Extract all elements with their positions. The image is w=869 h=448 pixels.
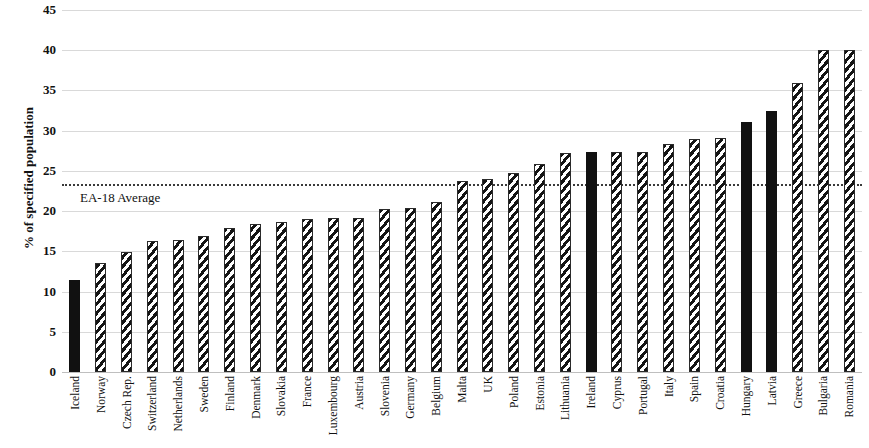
bar	[818, 50, 829, 372]
x-label-slot: Czech Rep.	[114, 374, 140, 448]
y-tick-label: 25	[22, 164, 56, 177]
bar	[844, 50, 855, 372]
bar-slot	[759, 10, 785, 372]
bar	[663, 144, 674, 372]
y-tick-label: 40	[22, 43, 56, 56]
bar-slot	[578, 10, 604, 372]
bar-series	[62, 10, 862, 372]
bar	[250, 224, 261, 372]
bar-slot	[372, 10, 398, 372]
x-tick-label: Germany	[404, 376, 416, 419]
bar	[328, 218, 339, 372]
bar-slot	[191, 10, 217, 372]
x-tick-label: Netherlands	[172, 376, 184, 432]
x-tick-label: Czech Rep.	[121, 376, 133, 429]
x-label-slot: Lithuania	[552, 374, 578, 448]
x-tick-label: Estonia	[534, 376, 546, 411]
y-tick-label: 30	[22, 124, 56, 137]
x-label-slot: Italy	[656, 374, 682, 448]
y-axis-tick-labels: 454035302520151050	[16, 10, 56, 372]
x-label-slot: Norway	[88, 374, 114, 448]
bar-slot	[785, 10, 811, 372]
bar	[147, 241, 158, 372]
x-tick-label: Italy	[663, 376, 675, 397]
x-tick-label: Austria	[353, 376, 365, 410]
bar	[276, 222, 287, 372]
bar-slot	[475, 10, 501, 372]
bar	[457, 181, 468, 372]
x-tick-label: Croatia	[714, 376, 726, 410]
x-label-slot: Sweden	[191, 374, 217, 448]
x-label-slot: Spain	[682, 374, 708, 448]
x-tick-label: Slovenia	[379, 376, 391, 416]
x-label-slot: Cyprus	[604, 374, 630, 448]
x-label-slot: Switzerland	[139, 374, 165, 448]
x-label-slot: Iceland	[62, 374, 88, 448]
x-tick-label: Portugal	[637, 376, 649, 415]
bar-slot	[656, 10, 682, 372]
y-tick-label: 45	[22, 3, 56, 16]
bar	[173, 240, 184, 372]
y-tick-label: 20	[22, 204, 56, 217]
bar	[766, 111, 777, 372]
x-tick-label: Iceland	[69, 376, 81, 410]
x-tick-label: Belgium	[430, 376, 442, 416]
x-label-slot: Latvia	[759, 374, 785, 448]
bar-slot	[269, 10, 295, 372]
x-label-slot: Greece	[785, 374, 811, 448]
bar	[198, 236, 209, 372]
bar-chart: % of specified population 45403530252015…	[0, 0, 869, 448]
x-tick-label: Bulgaria	[817, 376, 829, 416]
x-tick-label: Slovakia	[275, 376, 287, 416]
x-tick-label: Greece	[792, 376, 804, 409]
bar	[302, 219, 313, 372]
bar	[379, 209, 390, 372]
bar-slot	[733, 10, 759, 372]
x-tick-label: France	[301, 376, 313, 407]
x-label-slot: UK	[475, 374, 501, 448]
x-label-slot: Netherlands	[165, 374, 191, 448]
bar	[69, 280, 80, 372]
bar	[534, 164, 545, 372]
x-tick-label: Poland	[508, 376, 520, 408]
x-label-slot: Bulgaria	[811, 374, 837, 448]
y-tick-label: 5	[22, 325, 56, 338]
x-label-slot: Croatia	[707, 374, 733, 448]
bar-slot	[423, 10, 449, 372]
bar	[741, 122, 752, 372]
bar-slot	[165, 10, 191, 372]
x-label-slot: France	[294, 374, 320, 448]
bar	[637, 152, 648, 372]
bar	[586, 152, 597, 372]
bar	[560, 153, 571, 372]
bar	[689, 139, 700, 372]
bar	[482, 179, 493, 372]
bar-slot	[630, 10, 656, 372]
x-label-slot: Ireland	[578, 374, 604, 448]
y-tick-label: 0	[22, 365, 56, 378]
bar-slot	[320, 10, 346, 372]
x-tick-label: Hungary	[740, 376, 752, 416]
x-tick-label: Romania	[843, 376, 855, 418]
x-tick-label: Ireland	[585, 376, 597, 409]
bar-slot	[527, 10, 553, 372]
axis-baseline	[62, 372, 862, 373]
x-tick-label: Malta	[456, 376, 468, 403]
x-tick-label: Spain	[688, 376, 700, 402]
x-tick-label: UK	[482, 376, 494, 393]
bar	[508, 173, 519, 372]
x-tick-label: Denmark	[250, 376, 262, 419]
x-label-slot: Denmark	[243, 374, 269, 448]
x-axis-category-labels: IcelandNorwayCzech Rep.SwitzerlandNether…	[62, 374, 862, 448]
x-label-slot: Malta	[449, 374, 475, 448]
bar-slot	[62, 10, 88, 372]
x-label-slot: Austria	[346, 374, 372, 448]
bar	[715, 138, 726, 372]
bar	[121, 252, 132, 372]
plot-area: EA-18 Average	[62, 10, 862, 372]
x-label-slot: Germany	[398, 374, 424, 448]
x-label-slot: Romania	[836, 374, 862, 448]
bar-slot	[552, 10, 578, 372]
x-tick-label: Cyprus	[611, 376, 623, 409]
x-label-slot: Finland	[217, 374, 243, 448]
